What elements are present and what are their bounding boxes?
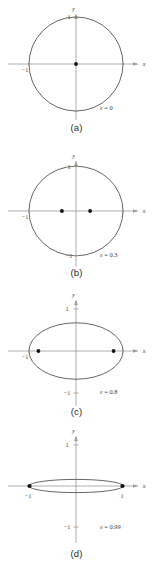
y-axis-arrow-icon — [74, 436, 78, 441]
y-axis-label: y — [71, 292, 75, 298]
eccentricity-label: ε = 0.99 — [100, 523, 121, 530]
focus-point-left — [37, 349, 41, 353]
x-tick-label-pos: 1 — [120, 492, 123, 499]
y-tick-label-pos: 1 — [67, 13, 70, 20]
x-axis-arrow-icon — [133, 349, 138, 353]
y-axis-arrow-icon — [74, 161, 78, 166]
x-axis-label: x — [142, 208, 146, 214]
focus-point — [74, 62, 78, 66]
panel-caption-d: (d) — [0, 548, 153, 559]
panel-c: x y −1 1 −1 ε = 0.8 (c) — [0, 288, 153, 412]
panel-b-plot: x y −1 1 −1 ε = 0.3 — [0, 145, 153, 269]
panel-c-plot: x y −1 1 −1 ε = 0.8 — [0, 288, 153, 412]
x-axis-arrow-icon — [133, 484, 138, 488]
y-axis-arrow-icon — [74, 300, 78, 305]
x-axis-label: x — [142, 348, 146, 354]
y-tick-label-neg: −1 — [66, 252, 73, 259]
focus-point-right — [88, 209, 92, 213]
x-tick-label-neg: −1 — [22, 213, 29, 220]
focus-point-left — [60, 209, 64, 213]
focus-point-right — [120, 484, 124, 488]
y-tick-label-neg: −1 — [64, 523, 71, 530]
focus-point-left — [27, 484, 31, 488]
eccentricity-label: ε = 0.8 — [100, 388, 117, 395]
panel-a: x y −1 1 ε = 0 (a) — [0, 2, 153, 126]
panel-caption-a: (a) — [0, 122, 153, 133]
x-tick-label-neg: −1 — [22, 353, 29, 360]
x-axis-label: x — [142, 61, 146, 67]
eccentricity-label: ε = 0.3 — [100, 251, 117, 258]
focus-point-right — [112, 349, 116, 353]
y-axis-label: y — [71, 428, 75, 434]
panel-caption-c: (c) — [0, 406, 153, 417]
y-tick-label-pos: 1 — [67, 163, 70, 170]
x-axis-label: x — [142, 483, 146, 489]
x-tick-label-neg: −1 — [25, 492, 32, 499]
x-tick-label-neg: −1 — [22, 66, 29, 73]
panel-a-plot: x y −1 1 ε = 0 — [0, 2, 153, 126]
y-tick-label-pos: 1 — [65, 305, 68, 312]
panel-d-plot: x y −1 1 1 −1 ε = 0.99 — [0, 428, 153, 556]
y-tick-label-neg: −1 — [64, 389, 71, 396]
x-axis-arrow-icon — [133, 209, 138, 213]
y-axis-arrow-icon — [74, 14, 78, 19]
eccentricity-label: ε = 0 — [100, 104, 113, 111]
y-axis-label: y — [71, 6, 75, 12]
ellipse-eccentricity-figure: x y −1 1 ε = 0 (a) x y −1 1 −1 ε — [0, 0, 153, 572]
panel-caption-b: (b) — [0, 267, 153, 278]
y-tick-label-pos: 1 — [65, 441, 68, 448]
panel-b: x y −1 1 −1 ε = 0.3 (b) — [0, 145, 153, 269]
y-axis-label: y — [71, 153, 75, 159]
panel-d: x y −1 1 1 −1 ε = 0.99 (d) — [0, 428, 153, 556]
x-axis-arrow-icon — [133, 62, 138, 66]
